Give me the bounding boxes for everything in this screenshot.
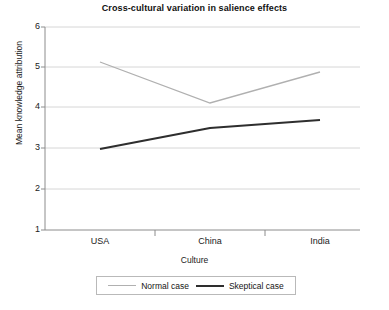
y-tick-2: 2 — [20, 183, 40, 193]
legend-label-normal-case: Normal case — [141, 281, 189, 291]
legend-item-skeptical-case: Skeptical case — [196, 281, 284, 291]
legend-line-normal-icon — [108, 285, 136, 286]
x-tick-china: China — [175, 236, 245, 246]
gridlines — [45, 27, 360, 189]
y-tick-6: 6 — [20, 21, 40, 31]
y-tick-3: 3 — [20, 142, 40, 152]
x-axis-label: Culture — [0, 255, 389, 265]
legend-line-skeptical-icon — [196, 285, 224, 287]
y-tick-5: 5 — [20, 61, 40, 71]
y-tick-4: 4 — [20, 101, 40, 111]
y-tick-1: 1 — [20, 224, 40, 234]
legend-label-skeptical-case: Skeptical case — [229, 281, 284, 291]
series-line-normal-case — [100, 62, 320, 103]
legend-item-normal-case: Normal case — [108, 281, 189, 291]
x-tick-india: India — [285, 236, 355, 246]
y-axis — [41, 27, 45, 230]
x-tick-usa: USA — [65, 236, 135, 246]
line-chart: Cross-cultural variation in salience eff… — [0, 0, 389, 310]
chart-legend: Normal case Skeptical case — [96, 276, 296, 295]
series-line-skeptical-case — [100, 120, 320, 149]
